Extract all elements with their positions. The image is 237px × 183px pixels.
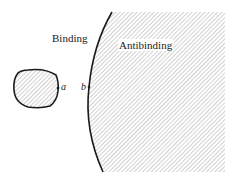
diagram-canvas (0, 0, 237, 183)
binding-blob (14, 70, 58, 108)
point-a-marker (57, 87, 60, 90)
point-b-marker (88, 86, 91, 89)
point-b-label: b (81, 81, 86, 92)
antibinding-label: Antibinding (118, 39, 173, 51)
point-a-label: a (61, 81, 66, 92)
binding-label: Binding (51, 32, 88, 44)
antibinding-region (88, 12, 225, 172)
